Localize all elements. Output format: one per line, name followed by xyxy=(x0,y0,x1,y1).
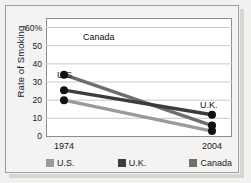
annotation-uk: U.K. xyxy=(200,100,218,110)
legend-item-us: U.S. xyxy=(46,158,75,168)
y-tick-label-0: 0 xyxy=(16,132,42,140)
legend-swatch-uk-icon xyxy=(118,159,126,167)
legend-item-uk: U.K. xyxy=(118,158,147,168)
y-tick-label-40: 40 xyxy=(16,60,42,68)
frame-shadow-bottom xyxy=(9,174,244,178)
legend-swatch-us-icon xyxy=(46,159,54,167)
annotation-canada: Canada xyxy=(83,32,115,42)
data-point-uk-2004 xyxy=(208,111,216,119)
data-point-us-2004 xyxy=(208,127,216,135)
data-point-us-1974 xyxy=(60,96,68,104)
x-tick-label-2004: 2004 xyxy=(192,141,232,151)
y-tick-label-50: 50 xyxy=(16,42,42,50)
y-tick-label-60: 60% xyxy=(16,24,42,32)
legend-label-uk: U.K. xyxy=(129,158,147,168)
legend-item-canada: Canada xyxy=(189,158,232,168)
legend-swatch-canada-icon xyxy=(189,159,197,167)
y-tick-label-20: 20 xyxy=(16,96,42,104)
data-point-uk-1974 xyxy=(60,86,68,94)
legend-label-us: U.S. xyxy=(57,158,75,168)
series-line-uk xyxy=(64,90,212,115)
y-axis-tick-labels: 60% 50 40 30 20 10 0 xyxy=(14,0,42,183)
series-line-us xyxy=(64,100,212,131)
chart-legend: U.S. U.K. Canada xyxy=(46,158,232,168)
chart-figure: Rate of Smoking 60% 50 40 30 20 10 0 197… xyxy=(0,0,251,183)
legend-label-canada: Canada xyxy=(200,158,232,168)
frame-shadow-right xyxy=(240,9,244,177)
annotation-us: U.S. xyxy=(57,70,75,80)
x-tick-label-1974: 1974 xyxy=(44,141,84,151)
y-tick-label-10: 10 xyxy=(16,114,42,122)
y-tick-label-30: 30 xyxy=(16,78,42,86)
